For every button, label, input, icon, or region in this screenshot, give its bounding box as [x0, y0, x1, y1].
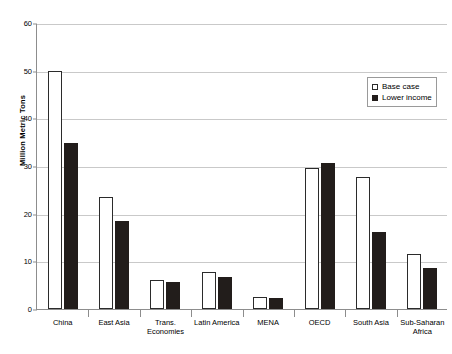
bar-base-case — [202, 272, 216, 309]
bar-base-case — [305, 168, 319, 309]
bar-base-case — [99, 197, 113, 309]
bar-base-case — [48, 71, 62, 309]
y-tick-label: 50 — [24, 68, 32, 76]
bar-lower-income — [115, 221, 129, 309]
bar-group: Trans. Economies — [140, 24, 191, 309]
x-axis-tick — [140, 309, 141, 317]
filled-square-icon — [372, 95, 378, 101]
x-axis-label: Sub-Saharan Africa — [385, 318, 452, 336]
y-tick-label: 40 — [24, 116, 32, 124]
legend-label-base-case: Base case — [382, 81, 419, 92]
bar-group: East Asia — [88, 24, 139, 309]
bar-group: MENA — [243, 24, 294, 309]
bar-lower-income — [64, 143, 78, 309]
y-tick-label: 0 — [28, 306, 32, 314]
bar-lower-income — [321, 163, 335, 309]
bar-base-case — [407, 254, 421, 309]
y-tick-label: 30 — [24, 163, 32, 171]
bar-lower-income — [218, 277, 232, 309]
y-tick-label: 20 — [24, 211, 32, 219]
x-axis-tick — [397, 309, 398, 317]
x-axis-tick — [345, 309, 346, 317]
y-tick-label: 10 — [24, 259, 32, 267]
bar-base-case — [253, 297, 267, 309]
legend-label-lower-income: Lower income — [382, 92, 432, 103]
bar-group: China — [37, 24, 88, 309]
x-axis-tick — [191, 309, 192, 317]
bar-lower-income — [269, 298, 283, 309]
y-tick-label: 60 — [24, 20, 32, 28]
bar-group: South Asia — [345, 24, 396, 309]
bar-group: Sub-Saharan Africa — [397, 24, 448, 309]
x-axis-tick — [243, 309, 244, 317]
x-axis-tick — [294, 309, 295, 317]
legend-item-lower-income: Lower income — [372, 92, 432, 103]
legend-item-base-case: Base case — [372, 81, 432, 92]
y-axis-title: Million Metric Tons — [18, 71, 27, 191]
bar-base-case — [150, 280, 164, 309]
y-tick-mark — [33, 310, 37, 311]
chart-legend: Base case Lower income — [367, 77, 437, 107]
bar-chart: Million Metric Tons 0102030405060ChinaEa… — [0, 0, 452, 354]
bar-group: OECD — [294, 24, 345, 309]
bar-lower-income — [166, 282, 180, 309]
bar-group: Latin America — [191, 24, 242, 309]
x-axis-tick — [88, 309, 89, 317]
bar-base-case — [356, 177, 370, 309]
bar-lower-income — [372, 232, 386, 309]
plot-area: 0102030405060ChinaEast AsiaTrans. Econom… — [36, 24, 447, 310]
hollow-square-icon — [372, 84, 378, 90]
bar-lower-income — [423, 268, 437, 309]
